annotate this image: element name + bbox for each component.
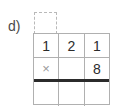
multiplicand-digit-hundreds: 1 <box>34 34 59 57</box>
computation-grid: 1 2 1 × 8 <box>33 33 110 105</box>
answer-row <box>34 82 109 106</box>
multiplication-operator-icon: × <box>34 58 59 79</box>
problem-label: d) <box>8 18 32 34</box>
multiplication-exercise: d) 1 2 1 × 8 <box>0 0 117 110</box>
multiplier-digit-ones: 8 <box>85 58 109 79</box>
answer-cell-tens[interactable] <box>59 82 84 106</box>
answer-cell-ones[interactable] <box>85 82 109 106</box>
multiplicand-digit-ones: 1 <box>85 34 109 57</box>
multiplicand-digit-tens: 2 <box>59 34 84 57</box>
multiplicand-row: 1 2 1 <box>34 34 109 58</box>
multiplier-row: × 8 <box>34 58 109 82</box>
answer-cell-hundreds[interactable] <box>34 82 59 106</box>
carry-box[interactable] <box>34 12 57 34</box>
multiplier-cell-tens <box>59 58 84 79</box>
